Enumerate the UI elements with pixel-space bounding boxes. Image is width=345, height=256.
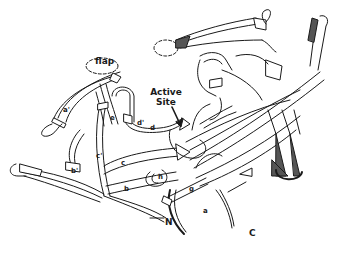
lower-left-sheet — [10, 164, 104, 202]
n-terminal-strands — [104, 190, 186, 234]
strand-label-g: g — [189, 186, 194, 193]
central-loop — [196, 154, 222, 168]
n-terminus-label: N — [165, 218, 173, 227]
active-site-label-line1: Active — [146, 88, 186, 97]
right-domain-sheet — [186, 72, 324, 186]
top-strands — [176, 10, 276, 52]
strand-c-prime — [97, 102, 110, 196]
strand-label-b: b — [124, 186, 129, 193]
strand-b-prime — [66, 130, 84, 172]
strand-label-c-prime: c' — [96, 153, 102, 160]
flap-label: flap — [95, 57, 114, 66]
right-hairpin — [268, 16, 328, 180]
active-site-label-line2: Site — [146, 98, 186, 107]
c-terminus-label: C — [249, 229, 256, 238]
strand-label-a: a — [203, 208, 208, 215]
strand-label-c: c — [121, 160, 125, 167]
strand-label-d-prime: d' — [137, 120, 144, 127]
protein-ribbon-diagram: flap Active Site a' b' c' c b d d' e h g… — [0, 0, 345, 256]
strand-c — [104, 144, 190, 174]
strand-label-d: d — [150, 125, 155, 132]
strand-label-b-prime: b' — [71, 168, 78, 175]
top-disordered-loop — [154, 40, 178, 56]
strand-label-h: h — [158, 174, 163, 181]
strand-label-e: e — [110, 115, 115, 122]
strand-label-a-prime: a' — [63, 107, 70, 114]
